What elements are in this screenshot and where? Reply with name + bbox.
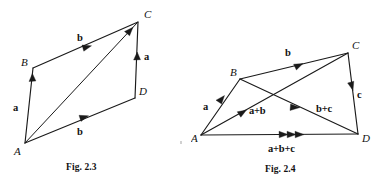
fig24-veclabel-c: c — [357, 89, 362, 100]
figure-2-3: A B C D a b b a Fig. 2.3 — [0, 0, 191, 184]
fig23-veclabel-a-left: a — [13, 102, 19, 113]
fig24-edge-B-to-C — [240, 53, 348, 79]
fig23-label-A: A — [13, 145, 21, 157]
fig24-edge-A-to-D-resultant — [201, 131, 358, 138]
fig23-edge-A-to-B — [25, 68, 36, 143]
fig23-label-B: B — [21, 56, 28, 68]
figure-2-4: A B C D a b c a+b b+c a+b+c Fig. 2.4 — [191, 0, 382, 184]
fig24-veclabel-a-plus-b-plus-c: a+b+c — [268, 143, 295, 154]
scan-speck — [180, 141, 182, 144]
fig24-veclabel-b-plus-c: b+c — [316, 103, 332, 114]
fig23-label-D: D — [138, 85, 147, 97]
fig24-label-A: A — [191, 132, 198, 144]
fig23-veclabel-b-bottom: b — [77, 126, 83, 137]
fig23-edge-B-to-C — [33, 22, 138, 68]
fig24-caption: Fig. 2.4 — [265, 164, 296, 174]
fig23-label-C: C — [144, 8, 152, 20]
figure-page: A B C D a b b a Fig. 2.3 — [0, 0, 382, 184]
fig24-label-B: B — [230, 66, 237, 78]
fig23-caption: Fig. 2.3 — [66, 162, 97, 172]
fig24-label-D: D — [361, 132, 370, 144]
fig23-veclabel-b-top: b — [77, 32, 83, 43]
fig24-veclabel-a-plus-b: a+b — [249, 105, 266, 116]
fig24-veclabel-a: a — [203, 101, 209, 112]
fig24-edge-A-to-C-diagonal — [201, 53, 348, 135]
fig24-label-C: C — [352, 39, 360, 51]
fig24-veclabel-b: b — [285, 47, 291, 58]
fig23-veclabel-a-right: a — [144, 51, 150, 62]
